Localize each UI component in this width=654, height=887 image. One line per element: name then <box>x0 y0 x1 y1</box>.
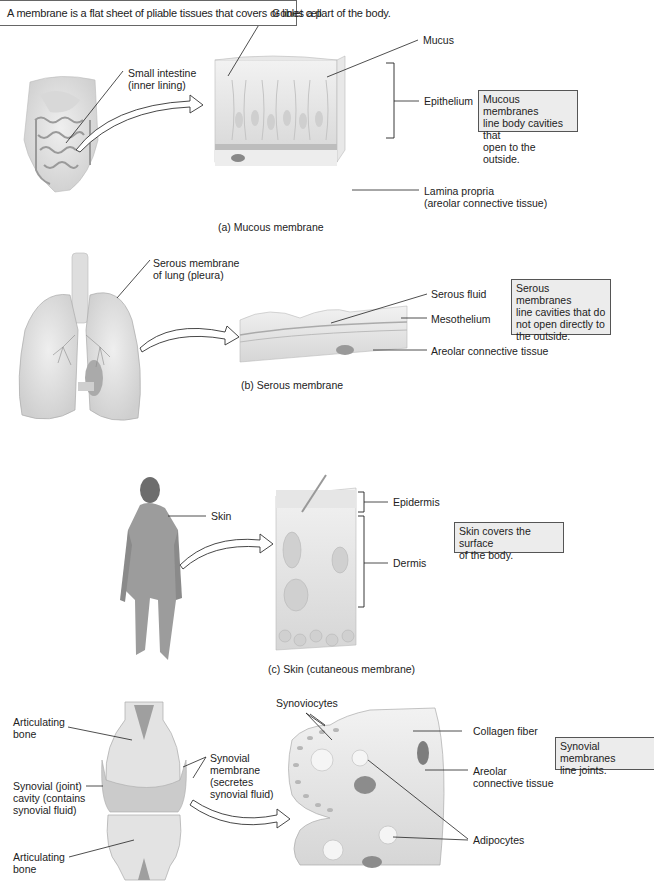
label-goblet-cell: Goblet cell <box>272 7 322 19</box>
label-articulating-bone-bottom: Articulating bone <box>13 851 65 875</box>
label-line: Synovial <box>210 752 274 764</box>
label-serous-membrane-lung: Serous membrane of lung (pleura) <box>153 257 239 281</box>
label-synoviocytes: Synoviocytes <box>276 697 338 709</box>
label-line: cavity (contains <box>13 792 85 804</box>
label-line: of lung (pleura) <box>153 269 239 281</box>
callout-line: line body cavities that <box>483 117 573 141</box>
label-synovial-membrane: Synovial membrane (secretes synovial flu… <box>210 752 274 800</box>
serous-tissue-illustration <box>240 306 407 362</box>
human-figure-illustration <box>120 477 182 660</box>
label-mesothelium: Mesothelium <box>431 313 491 325</box>
label-line: (secretes <box>210 776 274 788</box>
label-line: bone <box>13 863 65 875</box>
callout-skin: Skin covers the surface of the body. <box>454 522 564 553</box>
callout-line: Synovial membranes <box>560 740 650 764</box>
torso-intestine-illustration <box>24 76 98 192</box>
callout-line: the outside. <box>516 330 606 342</box>
label-line: Lamina propria <box>424 185 547 197</box>
label-line: bone <box>13 728 65 740</box>
label-line: connective tissue <box>473 777 554 789</box>
caption-mucous-membrane: (a) Mucous membrane <box>218 221 324 233</box>
label-mucus: Mucus <box>423 34 454 46</box>
label-line: synovial fluid) <box>210 788 274 800</box>
label-line: Articulating <box>13 716 65 728</box>
caption-serous-membrane: (b) Serous membrane <box>241 379 343 391</box>
label-lamina-propria: Lamina propria (areolar connective tissu… <box>424 185 547 209</box>
label-line: (inner lining) <box>128 79 196 91</box>
label-areolar-serous: Areolar connective tissue <box>431 345 548 357</box>
callout-line: Skin covers the surface <box>459 525 559 549</box>
synovial-joint-illustration <box>102 702 187 880</box>
label-dermis: Dermis <box>393 557 426 569</box>
label-line: synovial fluid) <box>13 804 85 816</box>
label-line: Small intestine <box>128 67 196 79</box>
callout-synovial: Synovial membranes line joints. <box>555 737 654 770</box>
label-synovial-cavity: Synovial (joint) cavity (contains synovi… <box>13 780 85 816</box>
label-skin: Skin <box>211 510 231 522</box>
callout-line: line cavities that do <box>516 306 606 318</box>
label-epithelium: Epithelium <box>424 95 473 107</box>
epithelium-block-illustration <box>215 56 345 166</box>
label-areolar-synovial: Areolar connective tissue <box>473 765 554 789</box>
callout-line: open to the outside. <box>483 141 573 165</box>
synovial-tissue-illustration <box>289 708 445 868</box>
callout-line: Serous membranes <box>516 282 606 306</box>
label-articulating-bone-top: Articulating bone <box>13 716 65 740</box>
callout-line: Mucous membranes <box>483 93 573 117</box>
label-epidermis: Epidermis <box>393 496 440 508</box>
callout-line: not open directly to <box>516 318 606 330</box>
callout-line: line joints. <box>560 764 650 776</box>
definition-text: A membrane is a flat sheet of pliable ti… <box>7 7 391 19</box>
label-line: Articulating <box>13 851 65 863</box>
callout-mucous: Mucous membranes line body cavities that… <box>478 90 578 132</box>
label-line: Serous membrane <box>153 257 239 269</box>
label-adipocytes: Adipocytes <box>473 834 524 846</box>
skin-block-illustration <box>276 475 356 650</box>
label-line: Synovial (joint) <box>13 780 85 792</box>
label-serous-fluid: Serous fluid <box>431 288 486 300</box>
label-line: membrane <box>210 764 274 776</box>
caption-skin-cutaneous: (c) Skin (cutaneous membrane) <box>268 663 415 675</box>
label-small-intestine: Small intestine (inner lining) <box>128 67 196 91</box>
definition-box: A membrane is a flat sheet of pliable ti… <box>0 0 297 26</box>
callout-line: of the body. <box>459 549 559 561</box>
label-line: (areolar connective tissue) <box>424 197 547 209</box>
label-collagen-fiber: Collagen fiber <box>473 725 538 737</box>
lungs-illustration <box>19 253 140 420</box>
label-line: Areolar <box>473 765 554 777</box>
callout-serous: Serous membranes line cavities that do n… <box>511 279 611 335</box>
